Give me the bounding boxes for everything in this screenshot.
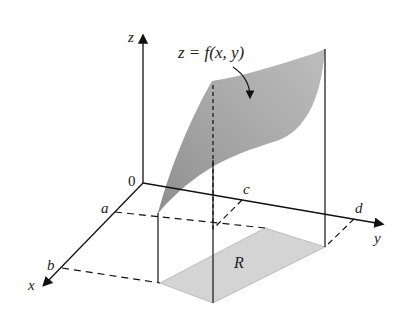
dash-d bbox=[325, 219, 354, 247]
tick-c-label: c bbox=[243, 181, 250, 197]
surface-label: z = f(x, y) bbox=[177, 43, 245, 62]
tick-d-label: d bbox=[355, 200, 363, 216]
origin-label: 0 bbox=[128, 173, 136, 189]
y-axis-label: y bbox=[372, 230, 381, 246]
x-axis-label: x bbox=[27, 277, 35, 293]
dash-a bbox=[115, 212, 265, 228]
dash-b bbox=[62, 268, 160, 283]
y-axis bbox=[143, 183, 382, 224]
tick-b-label: b bbox=[47, 257, 55, 273]
surface-label-text: z = f(x, y) bbox=[177, 43, 245, 62]
x-axis bbox=[44, 183, 143, 285]
region-label: R bbox=[233, 254, 244, 271]
tick-a-label: a bbox=[101, 200, 109, 216]
z-axis-label: z bbox=[127, 29, 134, 45]
surface-over-region-diagram: z z = f(x, y) 0 a b c d x y R bbox=[0, 0, 405, 325]
